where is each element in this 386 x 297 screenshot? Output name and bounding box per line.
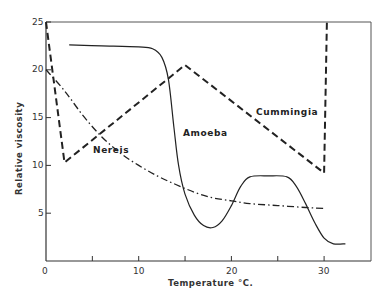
plot-frame [46,22,371,261]
x-tick-10: 10 [133,266,145,276]
y-axis-title: Relative viscosity [14,102,24,195]
y-tick-5: 5 [38,208,44,218]
y-tick-25: 25 [32,17,43,27]
label-nereis: Nereis [93,145,129,155]
y-tick-10: 10 [32,160,44,170]
label-amoeba: Amoeba [183,128,228,138]
y-tick-20: 20 [32,64,44,74]
viscosity-chart: 25 20 15 10 5 0 10 20 30 Temperature °C.… [0,0,386,297]
x-tick-20: 20 [226,266,238,276]
x-tick-30: 30 [318,266,330,276]
series-nereis-line [46,70,324,209]
series-cummingia-line [46,22,327,173]
x-tick-0: 0 [42,266,48,276]
label-cummingia: Cummingia [256,107,318,117]
y-tick-15: 15 [32,112,43,122]
x-axis-title: Temperature °C. [168,278,253,288]
